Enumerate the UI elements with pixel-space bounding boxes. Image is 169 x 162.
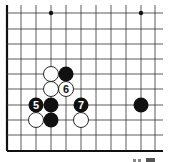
- white-stone: [74, 113, 89, 128]
- black-stone: [44, 98, 59, 113]
- move-number: 7: [78, 99, 84, 111]
- cropped-caption-fragment: [133, 158, 155, 162]
- stones: 657: [29, 67, 149, 128]
- black-stone-move-5: 5: [29, 98, 44, 113]
- go-board: 657: [0, 0, 169, 162]
- move-number: 6: [63, 83, 69, 95]
- black-stone: [59, 67, 74, 82]
- white-stone-move-6: 6: [59, 82, 74, 97]
- star-point: [139, 11, 143, 15]
- black-stone: [134, 98, 149, 113]
- grid-lines: [7, 5, 163, 151]
- black-stone-move-7: 7: [74, 98, 89, 113]
- white-stone: [29, 113, 44, 128]
- white-stone: [44, 67, 59, 82]
- white-stone: [44, 82, 59, 97]
- move-number: 5: [33, 99, 39, 111]
- star-point: [49, 11, 53, 15]
- black-stone: [44, 113, 59, 128]
